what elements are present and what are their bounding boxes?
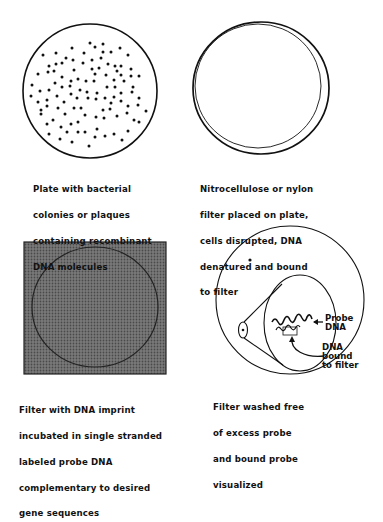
caption-line: labeled probe DNA [19,458,162,467]
caption-line: DNA molecules [33,263,152,272]
caption-line: Nitrocellulose or nylon [200,185,313,194]
caption-line: of excess probe [213,429,304,438]
dna-bound-label: DNA bound to filter [322,342,359,370]
probe-dna-squiggle [272,314,312,324]
caption-line: Filter washed free [213,403,304,412]
caption-line: gene sequences [19,509,162,518]
caption-line: Filter with DNA imprint [19,406,162,415]
caption-line: denatured and bound [200,263,313,272]
caption-line: to filter [200,288,313,297]
filter-on-plate [193,22,329,154]
plate-with-colonies [23,24,157,158]
caption-line: Plate with bacterial [33,185,152,194]
caption-line: complementary to desired [19,484,162,493]
svg-text:to filter: to filter [322,360,359,370]
caption-plate: Plate with bacterial colonies or plaques… [33,168,152,280]
caption-line: visualized [213,481,304,490]
caption-line: incubated in single stranded [19,432,162,441]
caption-line: containing recombinant [33,237,152,246]
caption-visualized: Filter washed free of excess probe and b… [213,386,304,498]
caption-line: colonies or plaques [33,211,152,220]
caption-probe-incubation: Filter with DNA imprint incubated in sin… [19,389,162,522]
svg-text:DNA: DNA [325,322,346,332]
caption-line: cells disrupted, DNA [200,237,313,246]
caption-line: filter placed on plate, [200,211,313,220]
probe-dna-label: Probe DNA [325,313,354,332]
caption-line: and bound probe [213,455,304,464]
caption-filter-placed: Nitrocellulose or nylon filter placed on… [200,168,313,306]
colony-dots [30,42,148,148]
